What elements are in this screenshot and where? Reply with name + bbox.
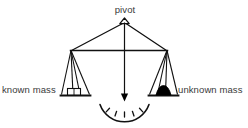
pointer-needle [121, 23, 128, 102]
left-hanger-cord-inner [71, 51, 90, 95]
right-mass-mound [156, 86, 171, 96]
left-suspension-leg [72, 23, 125, 51]
pointer-arrowhead-icon [121, 94, 128, 102]
scale-tick [140, 108, 143, 112]
known-mass-label: known mass [2, 84, 56, 95]
balance-scale-diagram [0, 0, 248, 128]
scale-tick [106, 108, 109, 112]
diagram-canvas: pivot known mass unknown mass [0, 0, 248, 128]
left-pan-assembly [61, 51, 91, 96]
right-suspension-leg [125, 23, 167, 51]
scale-arc-gauge [100, 105, 149, 122]
scale-tick [132, 111, 134, 116]
scale-arc-ticks [106, 108, 143, 117]
pivot-label: pivot [108, 4, 142, 15]
right-hanger-cord-outer [167, 51, 178, 95]
right-pan-assembly [149, 51, 179, 96]
scale-tick [115, 111, 117, 116]
suspension-legs [72, 23, 167, 51]
left-hanger-cord-outer [62, 51, 72, 95]
unknown-mass-label: unknown mass [178, 84, 243, 95]
